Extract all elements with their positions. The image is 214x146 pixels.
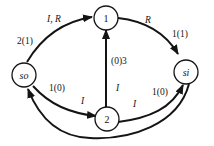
edge-2-to-si xyxy=(118,85,183,122)
edge-so-2-label-lower: I xyxy=(80,96,85,106)
edge-1-si-label-right: 1(1) xyxy=(172,29,188,40)
node-si-label: si xyxy=(183,67,190,78)
flow-network-diagram: so 1 2 si I, R 2(1) R 1(1) 1(0) I (0)3 I… xyxy=(0,0,214,146)
node-2-label: 2 xyxy=(105,114,110,125)
node-so: so xyxy=(12,63,36,87)
edge-2-si-label-upper: 1(0) xyxy=(152,87,168,98)
node-1: 1 xyxy=(94,6,118,30)
edge-so-2-label-upper: 1(0) xyxy=(49,83,65,94)
edge-2-1-label-lower: I xyxy=(115,83,120,93)
node-so-label: so xyxy=(20,70,29,81)
edge-1-si-label-top: R xyxy=(144,15,151,25)
node-1-label: 1 xyxy=(104,13,109,24)
edge-so-1-label-left: 2(1) xyxy=(17,36,33,47)
node-2: 2 xyxy=(95,107,119,131)
node-si: si xyxy=(174,60,198,84)
edge-2-1-label-upper: (0)3 xyxy=(111,56,127,67)
edge-so-1-label-top: I, R xyxy=(46,14,61,24)
edge-2-si-label-lower: I xyxy=(132,99,137,109)
